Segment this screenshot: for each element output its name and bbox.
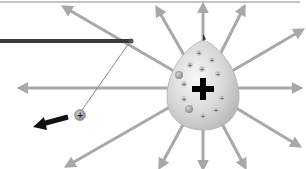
electric-field-diagram: + + + + + + + + + + + [0,0,306,169]
svg-text:+: + [181,80,186,87]
svg-text:+: + [181,95,186,102]
pendulum-thread [82,43,129,110]
force-arrow-icon [33,117,68,130]
field-lines [20,5,302,168]
test-charge-label: + [77,111,84,120]
rod-tip [129,39,134,44]
svg-text:+: + [215,70,220,77]
svg-text:+: + [199,65,204,72]
svg-text:+: + [187,61,192,68]
diagram-canvas: + + + + + + + + + + + [0,0,306,169]
svg-text:+: + [209,56,214,63]
svg-text:+: + [213,106,218,113]
svg-text:+: + [219,94,224,101]
svg-text:+: + [196,49,201,56]
svg-text:+: + [200,112,205,119]
test-charge: + [75,110,86,121]
